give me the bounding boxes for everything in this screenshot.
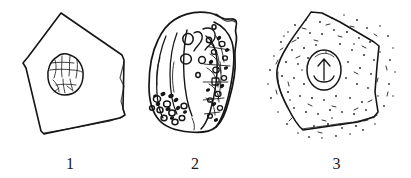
figure-3-drawing	[262, 0, 411, 150]
figure-2-drawing	[130, 0, 260, 150]
chromatin-network-icon	[50, 56, 82, 93]
nucleus-icon	[48, 54, 83, 95]
nucleus-arrow-icon	[318, 59, 330, 80]
cell-outline-icon	[277, 12, 379, 130]
nucleus-icon	[307, 50, 341, 90]
figure-3-label: 3	[262, 156, 411, 172]
figure-1: 1	[0, 0, 140, 178]
figure-2: 2	[130, 0, 260, 178]
cell-outline-top-notch-icon	[216, 14, 235, 22]
figure-plate: 1	[0, 0, 411, 178]
cell-outline-retrace-icon	[302, 115, 377, 129]
figure-1-drawing	[0, 0, 140, 150]
nucleus-top-arc-icon	[315, 53, 334, 57]
granule-cluster-icon	[150, 91, 188, 125]
figure-3: 3	[262, 0, 411, 178]
figure-1-label: 1	[0, 156, 140, 172]
cell-outline-icon	[23, 13, 125, 134]
figure-2-label: 2	[130, 156, 260, 172]
cut-face-icon	[201, 22, 234, 129]
